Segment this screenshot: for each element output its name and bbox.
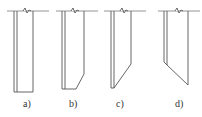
break-mark-icon: [120, 8, 128, 13]
break-mark-icon: [175, 8, 183, 13]
figure-b-label: b): [69, 98, 77, 109]
figure-b-pile: [56, 8, 98, 89]
figure-d-pile: [158, 8, 200, 85]
break-mark-icon: [71, 8, 79, 13]
figure-c-pile: [104, 8, 146, 88]
break-mark-icon: [23, 8, 31, 13]
figure-a-pile: [7, 8, 49, 92]
figure-a-label: a): [23, 98, 31, 109]
figure-d-label: d): [175, 98, 183, 109]
figure-c-label: c): [116, 98, 124, 109]
